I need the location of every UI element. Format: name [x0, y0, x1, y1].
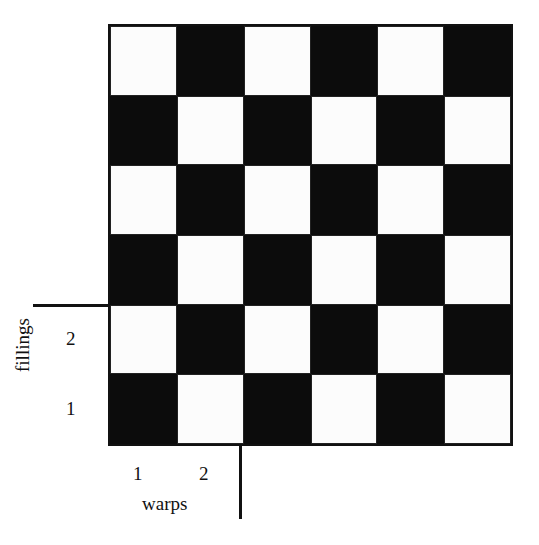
- weave-cell: [110, 26, 177, 96]
- weave-cell: [377, 26, 444, 96]
- weave-cell: [177, 305, 244, 375]
- weave-cell: [311, 235, 378, 305]
- weave-cell: [244, 374, 311, 444]
- warps-label: warps: [142, 493, 187, 515]
- fillings-label: fillings: [12, 318, 34, 372]
- filling-number-1: 1: [66, 398, 76, 420]
- weave-cell: [377, 96, 444, 166]
- weave-cell: [311, 26, 378, 96]
- weave-cell: [311, 165, 378, 235]
- weave-cell: [444, 235, 511, 305]
- weave-cell: [444, 165, 511, 235]
- weave-cell: [377, 374, 444, 444]
- weave-cell: [110, 96, 177, 166]
- weave-cell: [177, 96, 244, 166]
- filling-number-2: 2: [66, 328, 76, 350]
- repeat-marker-vertical: [239, 446, 242, 519]
- weave-cell: [377, 165, 444, 235]
- weave-cell: [177, 235, 244, 305]
- weave-cell: [110, 374, 177, 444]
- weave-cell: [110, 165, 177, 235]
- weave-cell: [244, 305, 311, 375]
- weave-cell: [444, 305, 511, 375]
- weave-cell: [377, 235, 444, 305]
- weave-cell: [110, 235, 177, 305]
- weave-cell: [311, 374, 378, 444]
- weave-cell: [444, 26, 511, 96]
- weave-cell: [177, 374, 244, 444]
- weave-cell: [244, 26, 311, 96]
- warp-number-2: 2: [199, 463, 209, 485]
- weave-cell: [244, 235, 311, 305]
- repeat-marker-horizontal: [33, 304, 109, 307]
- weave-cell: [444, 96, 511, 166]
- weave-cell: [311, 305, 378, 375]
- weave-grid: [108, 24, 513, 446]
- weave-cell: [444, 374, 511, 444]
- weave-cell: [377, 305, 444, 375]
- weave-cell: [244, 165, 311, 235]
- weave-cell: [110, 305, 177, 375]
- weave-cell: [311, 96, 378, 166]
- weave-cell: [244, 96, 311, 166]
- weave-cell: [177, 165, 244, 235]
- warp-number-1: 1: [133, 463, 143, 485]
- weave-cell: [177, 26, 244, 96]
